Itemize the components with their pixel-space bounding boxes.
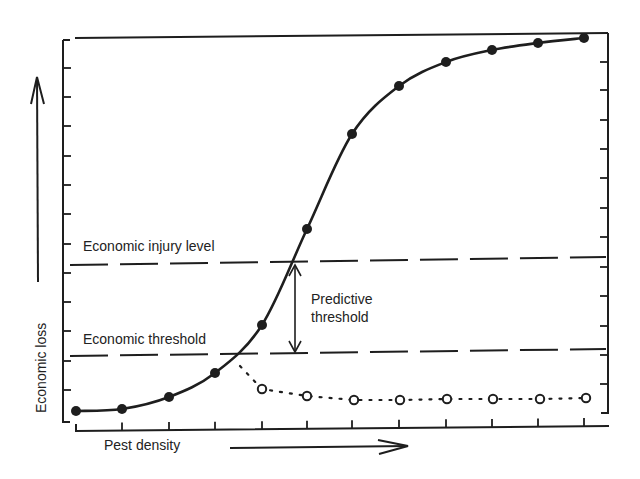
- data-point: [394, 81, 404, 91]
- predictive-threshold-arrow-icon: [289, 265, 301, 352]
- data-point: [441, 57, 451, 67]
- predictive-threshold-label-line2: threshold: [311, 309, 369, 325]
- data-point: [533, 38, 543, 48]
- data-point: [164, 392, 174, 402]
- data-point-open: [258, 385, 266, 393]
- plot-frame: [63, 33, 609, 431]
- data-point: [579, 33, 589, 43]
- data-point: [347, 129, 357, 139]
- data-point-open: [489, 395, 497, 403]
- data-point: [302, 224, 312, 234]
- economic-threshold-diagram: Economic injury level Economic threshold…: [0, 0, 640, 479]
- data-point: [71, 406, 81, 416]
- predictive-threshold-label-line1: Predictive: [311, 291, 373, 307]
- data-point-open: [350, 396, 358, 404]
- economic-injury-level-line: [70, 257, 606, 265]
- economic-threshold-line: [70, 349, 606, 356]
- economic-injury-level-label: Economic injury level: [83, 238, 215, 254]
- data-point: [210, 368, 220, 378]
- data-point-open: [536, 395, 544, 403]
- x-axis-direction-arrow-icon: [230, 440, 408, 454]
- data-point-open: [396, 396, 404, 404]
- treated-population-points: [258, 385, 590, 404]
- economic-threshold-label: Economic threshold: [83, 331, 206, 347]
- data-point-open: [303, 392, 311, 400]
- data-point-open: [443, 395, 451, 403]
- data-point: [257, 320, 267, 330]
- y-axis-direction-arrow-icon: [31, 77, 44, 282]
- x-axis-label: Pest density: [104, 437, 180, 453]
- untreated-population-points: [71, 33, 589, 416]
- data-point: [487, 45, 497, 55]
- data-point: [117, 404, 127, 414]
- y-axis-label: Economic loss: [33, 323, 49, 413]
- treated-population-line: [240, 366, 586, 400]
- data-point-open: [582, 394, 590, 402]
